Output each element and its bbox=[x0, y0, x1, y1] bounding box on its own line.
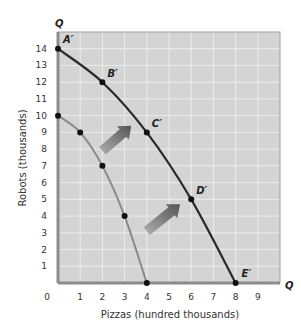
data-point bbox=[144, 129, 150, 135]
data-point bbox=[188, 196, 194, 202]
x-tick-label: 2 bbox=[100, 292, 106, 302]
point-label: D′ bbox=[196, 185, 207, 196]
y-tick-label: 5 bbox=[41, 194, 47, 204]
y-tick-label: 10 bbox=[36, 111, 48, 121]
point-label: C′ bbox=[152, 118, 162, 129]
y-tick-label: 2 bbox=[41, 245, 47, 255]
x-tick-label: 6 bbox=[188, 292, 194, 302]
x-tick-label: 5 bbox=[166, 292, 172, 302]
y-tick-label: 13 bbox=[36, 60, 47, 70]
y-tick-label: 3 bbox=[41, 228, 47, 238]
point-label: B′ bbox=[107, 68, 118, 79]
x-tick-label: 8 bbox=[233, 292, 239, 302]
y-tick-label: 4 bbox=[41, 211, 47, 221]
x-tick-label: 1 bbox=[77, 292, 83, 302]
point-label: A′ bbox=[62, 34, 74, 45]
y-axis-title: Robots (thousands) bbox=[17, 109, 28, 206]
data-point bbox=[144, 280, 150, 286]
y-tick-label: 6 bbox=[41, 178, 47, 188]
y-tick-label: 14 bbox=[36, 44, 48, 54]
point-label: E′ bbox=[242, 268, 252, 279]
y-tick-label: 9 bbox=[41, 127, 47, 137]
y-axis-letter: Q bbox=[55, 18, 64, 29]
x-axis-letter: Q bbox=[285, 280, 294, 291]
x-axis-title: Pizzas (hundred thousands) bbox=[101, 309, 239, 320]
data-point bbox=[55, 113, 61, 119]
x-tick-label: 0 bbox=[44, 292, 50, 302]
y-tick-label: 7 bbox=[41, 161, 47, 171]
data-point bbox=[55, 46, 61, 52]
y-tick-label: 8 bbox=[41, 144, 47, 154]
x-tick-label: 7 bbox=[211, 292, 217, 302]
data-point bbox=[233, 280, 239, 286]
data-point bbox=[77, 129, 83, 135]
y-tick-label: 11 bbox=[36, 94, 47, 104]
data-point bbox=[99, 79, 105, 85]
y-tick-label: 12 bbox=[36, 77, 47, 87]
x-tick-label: 3 bbox=[122, 292, 128, 302]
x-tick-label: 4 bbox=[144, 292, 150, 302]
data-point bbox=[122, 213, 128, 219]
y-tick-label: 1 bbox=[41, 261, 47, 271]
x-tick-label: 9 bbox=[255, 292, 261, 302]
ppf-chart: A′B′C′D′E′ 01234567891234567891011121314… bbox=[0, 0, 301, 332]
data-point bbox=[99, 163, 105, 169]
